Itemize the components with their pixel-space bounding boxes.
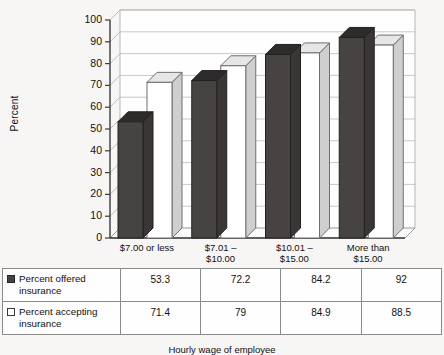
bar-offered-3-side-face [364, 27, 374, 238]
table-value-r0-c1: 72.2 [200, 269, 280, 302]
bar-accepting-1-side-face [246, 56, 256, 238]
bar-offered-3-front-face [339, 37, 364, 238]
bar-offered-0-front-face [118, 122, 143, 238]
depth-connector [110, 54, 120, 64]
y-tick-label: 100 [72, 15, 102, 23]
plot-frame [0, 0, 444, 252]
legend-label-line2: insurance [19, 318, 97, 330]
legend-label-1: Percent acceptinginsurance [19, 306, 97, 329]
depth-connector [110, 97, 120, 107]
y-tick-label: 10 [72, 211, 102, 219]
bar-accepting-2-side-face [320, 43, 330, 238]
table-row: Percent acceptinginsurance71.47984.988.5 [3, 302, 442, 335]
y-tick-label: 60 [72, 102, 102, 110]
legend-label-line2: insurance [19, 285, 86, 297]
legend-label-line1: Percent offered [19, 273, 86, 285]
data-table: Percent offeredinsurance53.372.284.292Pe… [2, 268, 442, 335]
legend-cell-0: Percent offeredinsurance [3, 269, 121, 302]
depth-connector [110, 32, 120, 42]
table-value-r1-c1: 79 [200, 302, 280, 335]
bar-offered-3 [339, 27, 374, 238]
y-tick-label: 50 [72, 124, 102, 132]
table-value-r0-c2: 84.2 [281, 269, 361, 302]
table-value-r1-c3: 88.5 [361, 302, 441, 335]
bar-offered-2-side-face [291, 44, 301, 238]
bar-offered-1-front-face [192, 81, 217, 238]
bar-offered-1-side-face [217, 71, 227, 238]
legend-label-0: Percent offeredinsurance [19, 273, 86, 296]
table-value-r1-c0: 71.4 [120, 302, 200, 335]
depth-connector [110, 10, 120, 20]
bar-offered-2 [266, 44, 301, 238]
legend-swatch-hollow-icon [7, 308, 15, 316]
legend-label-line1: Percent accepting [19, 306, 97, 318]
bar-accepting-3-side-face [393, 35, 403, 238]
x-category-label-line: $15.00 [325, 253, 411, 264]
y-tick-label: 20 [72, 189, 102, 197]
table-value-r1-c2: 84.9 [281, 302, 361, 335]
table-value-r0-c0: 53.3 [120, 269, 200, 302]
bar-accepting-0-side-face [172, 72, 182, 238]
x-category-label-line: More than [325, 242, 411, 253]
chart-plot-region: Percent 1009080706050403020100 [0, 0, 444, 252]
depth-connector [110, 75, 120, 85]
legend-cell-1: Percent acceptinginsurance [3, 302, 121, 335]
table-row: Percent offeredinsurance53.372.284.292 [3, 269, 442, 302]
y-tick-label: 30 [72, 168, 102, 176]
y-tick-label: 90 [72, 37, 102, 45]
y-tick-label: 70 [72, 80, 102, 88]
bar-offered-1 [192, 71, 227, 238]
y-tick-label: 0 [72, 233, 102, 241]
x-axis-title: Hourly wage of employee [0, 344, 444, 355]
y-tick-label: 80 [72, 59, 102, 67]
bar-offered-0-side-face [143, 112, 153, 238]
x-category-label-3: More than$15.00 [325, 242, 411, 264]
bar-offered-2-front-face [266, 54, 291, 238]
table-value-r0-c3: 92 [361, 269, 441, 302]
bar-offered-0 [118, 112, 153, 238]
y-tick-label: 40 [72, 146, 102, 154]
legend-swatch-filled-icon [7, 275, 15, 283]
